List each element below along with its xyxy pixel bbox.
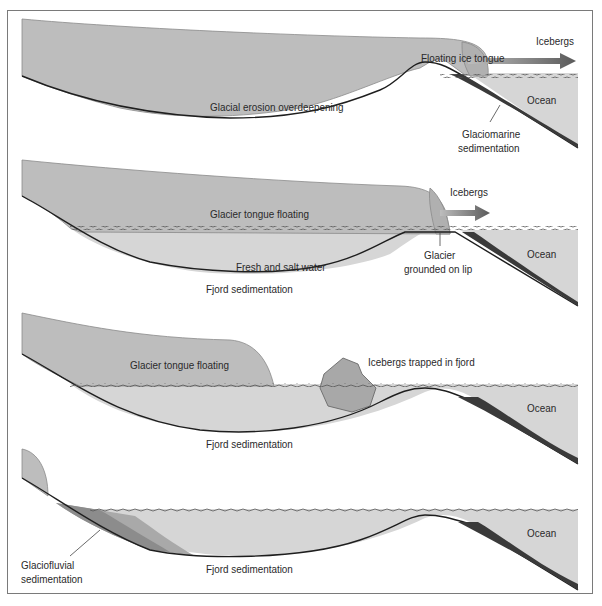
label-glaciomarine-line1: Glaciomarine [462, 127, 520, 141]
label-glaciomarine-line2: sedimentation [458, 141, 520, 155]
label-glacier-tongue-floating: Glacier tongue floating [210, 207, 309, 221]
label-grounded-line1: Glacier [424, 248, 455, 262]
glacier-ice [22, 160, 450, 234]
label-ocean: Ocean [527, 526, 556, 540]
label-glacier-tongue-floating: Glacier tongue floating [130, 358, 229, 372]
label-fjord-sedimentation: Fjord sedimentation [206, 562, 293, 576]
fjord-formation-diagram [0, 0, 602, 606]
label-icebergs-trapped: Icebergs trapped in fjord [368, 355, 475, 369]
label-fresh-salt-water: Fresh and salt water [236, 260, 326, 274]
label-fjord-sedimentation: Fjord sedimentation [206, 282, 293, 296]
label-ocean: Ocean [527, 247, 556, 261]
panel-2 [22, 160, 578, 306]
label-glaciofluvial-line1: Glaciofluvial [21, 558, 74, 572]
panel-3 [22, 313, 578, 464]
panel-4 [22, 449, 578, 590]
label-icebergs: Icebergs [450, 185, 488, 199]
label-grounded-line2: grounded on lip [404, 262, 472, 276]
label-fjord-sedimentation: Fjord sedimentation [206, 437, 293, 451]
label-icebergs: Icebergs [536, 34, 574, 48]
label-ocean: Ocean [527, 401, 556, 415]
glacier-ice [22, 313, 274, 386]
glacier-remnant [22, 449, 48, 496]
label-ocean: Ocean [527, 93, 556, 107]
label-floating-ice-tongue: Floating ice tongue [421, 51, 505, 65]
label-glacial-erosion: Glacial erosion overdeepening [210, 100, 344, 114]
label-glaciofluvial-line2: sedimentation [21, 572, 83, 586]
